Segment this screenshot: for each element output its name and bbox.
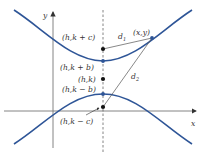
vertex-upper-point: [101, 59, 105, 63]
distance-d1-line: [103, 38, 152, 49]
y-axis-label: y: [42, 11, 48, 20]
focus-lower-pointer: [86, 108, 99, 115]
curve-point-xy: [150, 36, 154, 40]
focus-lower-point: [101, 105, 105, 109]
d1-label: d1: [118, 32, 126, 42]
hyperbola-diagram: x y (h,k + c) (h,k + b) (h,k) (h,k − b) …: [0, 0, 202, 154]
d2-label: d2: [131, 72, 139, 82]
hyperbola-upper-branch: [14, 10, 192, 61]
vertex-lower-point: [101, 92, 105, 96]
center-label: (h,k): [78, 75, 96, 84]
focus-upper-point: [101, 47, 105, 51]
focus-lower-label: (h,k − c): [60, 117, 93, 126]
vertex-upper-label: (h,k + b): [60, 63, 94, 72]
curve-point-label: (x,y): [133, 28, 150, 37]
x-axis-label: x: [191, 119, 196, 128]
vertex-lower-label: (h,k − b): [62, 85, 96, 94]
center-point: [101, 77, 105, 81]
axes: x y: [4, 11, 196, 148]
distance-d2-line: [103, 38, 152, 107]
focus-upper-label: (h,k + c): [62, 33, 95, 42]
